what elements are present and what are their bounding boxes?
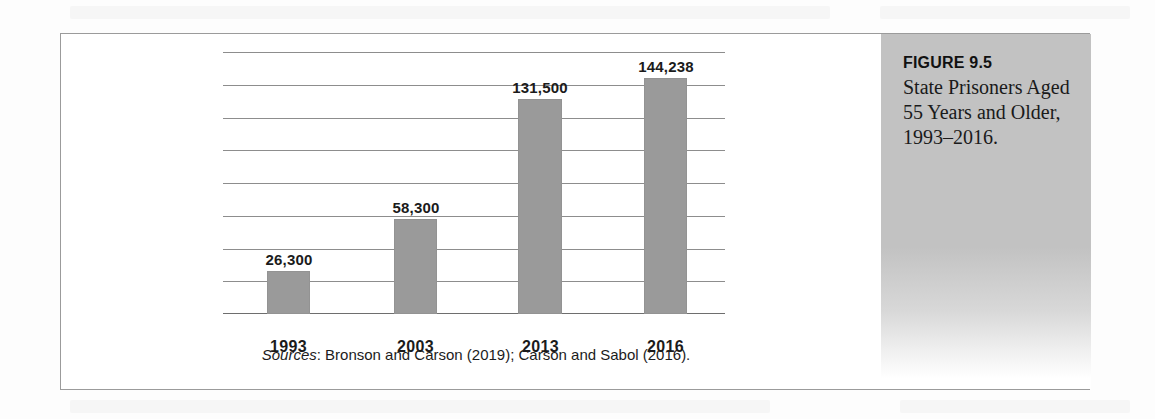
bar-value-label-2013: 131,500: [495, 79, 585, 96]
figure-number: FIGURE 9.5: [903, 54, 1075, 72]
bar-chart: 26,300 58,300 131,500 144,238 1993 2003 …: [61, 34, 891, 389]
figure-container: 26,300 58,300 131,500 144,238 1993 2003 …: [60, 33, 1090, 390]
gridline-160000: [223, 52, 725, 53]
bar-2013[interactable]: [518, 99, 562, 314]
figure-caption-panel: FIGURE 9.5 State Prisoners Aged 55 Years…: [881, 34, 1091, 389]
plot-area: 26,300 58,300 131,500 144,238 1993 2003 …: [223, 52, 725, 314]
source-note: Sources: Bronson and Carson (2019); Cars…: [61, 346, 891, 363]
figure-title: State Prisoners Aged 55 Years and Older,…: [903, 75, 1075, 151]
source-label: Sources: [262, 346, 317, 363]
bar-1993[interactable]: [267, 271, 310, 314]
bar-2003[interactable]: [394, 219, 437, 315]
bar-2016[interactable]: [644, 78, 687, 314]
bar-value-label-1993: 26,300: [247, 251, 331, 268]
bar-value-label-2003: 58,300: [374, 199, 458, 216]
bar-value-label-2016: 144,238: [621, 58, 711, 75]
figure-caption: FIGURE 9.5 State Prisoners Aged 55 Years…: [903, 54, 1075, 151]
source-citation: : Bronson and Carson (2019); Carson and …: [317, 346, 691, 363]
